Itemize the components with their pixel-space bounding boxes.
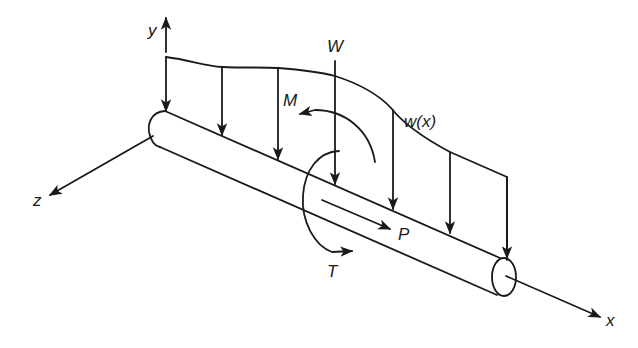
- z-axis: [50, 136, 153, 195]
- beam-diagram: y z x w(x) W M T P: [0, 0, 638, 348]
- x-axis-label: x: [605, 311, 615, 330]
- x-axis: [506, 276, 600, 317]
- bending-moment-label: M: [283, 91, 298, 110]
- beam-end-cap: [492, 258, 516, 296]
- point-force-label: W: [327, 37, 345, 56]
- z-axis-label: z: [32, 191, 42, 210]
- distributed-load-label: w(x): [404, 112, 436, 131]
- bending-moment-M: [300, 110, 375, 162]
- y-axis-label: y: [147, 21, 158, 40]
- distributed-load: [166, 57, 507, 260]
- torque-label: T: [327, 262, 339, 281]
- axial-force-label: P: [398, 225, 410, 244]
